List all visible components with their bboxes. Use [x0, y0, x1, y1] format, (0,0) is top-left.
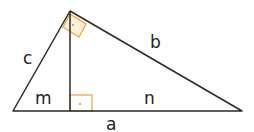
- foot-right-angle-marker: [70, 95, 92, 111]
- label-c: c: [23, 48, 32, 68]
- label-a: a: [106, 114, 116, 132]
- label-m: m: [35, 88, 52, 108]
- label-b: b: [150, 32, 161, 52]
- label-n: n: [144, 88, 155, 108]
- triangle-figure: c b m n a: [0, 0, 254, 132]
- triangle-diagram: c b m n a: [0, 0, 254, 132]
